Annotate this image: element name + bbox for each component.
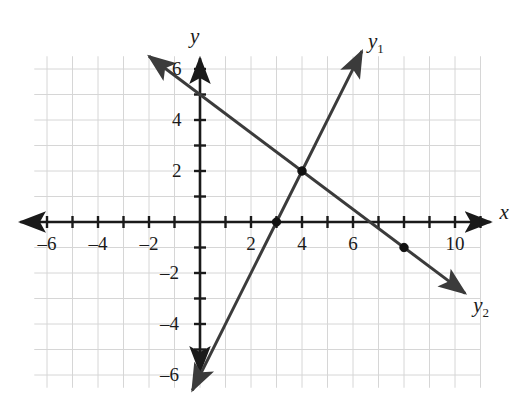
x-tick-label-neg6: –6 — [38, 234, 57, 253]
y-tick-label-6: 6 — [172, 59, 182, 78]
curve-label-y2: y2 — [473, 295, 489, 319]
y-tick-label-4: 4 — [172, 110, 182, 129]
curve-label-y1-base: y — [368, 29, 377, 53]
y-tick-label-neg4: –4 — [160, 314, 179, 333]
axis-lines — [20, 58, 490, 372]
x-tick-label-2: 2 — [246, 234, 256, 253]
curve-label-y2-sub: 2 — [483, 306, 490, 321]
x-axis-label: x — [500, 202, 509, 223]
y-tick-label-neg6: –6 — [160, 365, 179, 384]
graph-canvas — [0, 0, 514, 415]
x-tick-label-6: 6 — [348, 234, 358, 253]
coordinate-graph: –6–4–224610642–2–4–6 x y y1 y2 — [0, 0, 514, 415]
x-tick-label-neg2: –2 — [140, 234, 159, 253]
x-tick-label-10: 10 — [446, 234, 465, 253]
curve-label-y2-base: y — [473, 293, 482, 317]
x-tick-label-neg4: –4 — [89, 234, 108, 253]
marked-points — [272, 167, 408, 252]
y-tick-label-2: 2 — [172, 161, 182, 180]
y-tick-label-neg2: –2 — [160, 263, 179, 282]
curve-label-y1: y1 — [368, 31, 384, 55]
x-tick-label-4: 4 — [297, 234, 307, 253]
curve-label-y1-sub: 1 — [377, 41, 384, 56]
y-axis-label: y — [190, 26, 199, 47]
